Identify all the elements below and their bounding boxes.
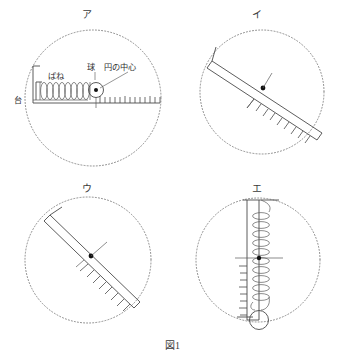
spring-bottom-tail-e [251,302,255,310]
ruler-body-i [207,61,322,140]
center-label-a: 円の中心 [104,62,136,72]
panel-e-label: エ [252,184,262,194]
figure-caption: 図1 [0,337,345,352]
zero-mark-u [76,260,84,267]
spring-top-hook-e [261,200,270,212]
panel-u-diagram [0,178,175,338]
spring-label-a: ばね [48,72,64,81]
ruler-body-u [44,215,140,308]
panel-e-diagram [175,178,345,338]
panel-a-label: ア [82,10,92,20]
circle-outline-a [25,30,161,166]
center-stem-i [263,73,272,88]
panel-i-diagram [175,0,345,178]
center-stem-u [91,242,107,256]
panel-u-label: ウ [82,184,92,194]
panel-a: ア [0,0,175,178]
ruler-ticks-u [80,264,130,311]
circle-center-dot-e [257,256,261,260]
panel-a-diagram: ばね 球 円の中心 台 [0,0,175,178]
ruler-ticks-e [239,266,247,315]
ruler-ticks-a [100,96,160,103]
panel-u: ウ [0,178,175,338]
circle-outline-e [196,198,320,322]
circle-outline-i [200,30,324,154]
stand-label-a: 台 [14,95,22,105]
panel-i-label: イ [252,10,262,20]
panel-e: エ [175,178,345,338]
panel-i: イ [175,0,345,178]
circle-outline-u [25,197,151,323]
spring-coils-e [253,213,270,301]
ball-label-a: 球 [87,62,95,72]
ruler-ticks-i [247,99,310,143]
figure-sheet: ア [0,0,345,358]
center-leader-line-a [100,72,128,88]
circle-center-dot-a [94,88,98,92]
spring-coils-a [41,82,90,99]
ruler-top-end-i [212,47,216,61]
zero-mark-i [247,99,254,108]
